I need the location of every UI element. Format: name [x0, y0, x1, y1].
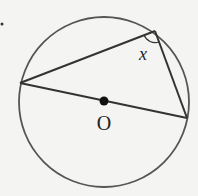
angle-label: x	[138, 44, 147, 64]
stray-dot	[1, 23, 4, 26]
chord-top-right	[155, 31, 187, 118]
center-label: O	[97, 112, 111, 134]
center-point	[100, 97, 109, 106]
chord-left-top	[20, 31, 155, 83]
circle-diagram: O x	[0, 0, 198, 196]
